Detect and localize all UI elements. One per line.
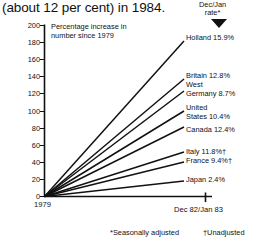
series-line-west-germany [45, 91, 185, 197]
series-label-west-germany-line2: Germany 8.7% [186, 90, 235, 98]
x-axis-origin-label: 1979 [34, 200, 51, 209]
series-label-canada: Canada 12.4% [186, 126, 235, 134]
series-label-france: France 9.4%† [186, 157, 232, 165]
down-triangle-icon [211, 19, 227, 28]
series-label-japan: Japan 2.4% [186, 176, 225, 184]
series-line-holland [45, 41, 185, 197]
deca-jan-rate-line2: rate* [205, 8, 221, 17]
series-label-holland: Holland 15.9% [186, 34, 234, 42]
deca-jan-rate-callout: Dec/Jan rate* [199, 1, 226, 18]
footnote-seasonally-adjusted: *Seasonally adjusted [110, 228, 179, 237]
x-axis-end-label: Dec 82/Jan 83 [174, 205, 223, 214]
footnote-unadjusted: †Unadjusted [203, 228, 245, 237]
chart-container: (about 12 per cent) in 1984. Percentage … [0, 0, 271, 245]
series-label-united-states-line2: States 10.4% [186, 113, 230, 121]
